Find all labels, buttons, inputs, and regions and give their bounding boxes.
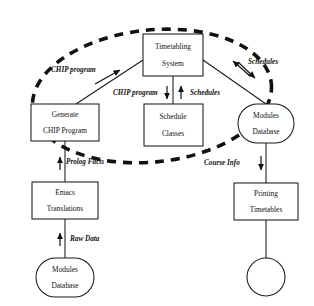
node-modules-database-right: Modules Database [238,104,294,143]
edge-label-raw-data: Raw Data [69,235,100,243]
node-generate-chip-program-line1: Generate [52,110,79,119]
node-output-circle-shape [247,258,285,296]
diagram-svg: Timetabling System Generate CHIP Program… [0,0,314,306]
node-schedule-classes: Schedule Classes [144,104,203,146]
edge-label-prolog-facts: Prolog Facts [66,158,104,166]
node-modules-database-right-line2: Database [252,127,280,136]
node-timetabling-system-shape [143,34,203,76]
node-printing-timetables: Printing Timetables [234,183,298,220]
edge-label-chip-program-diagonal: CHIP program [51,66,96,74]
node-generate-chip-program: Generate CHIP Program [31,104,99,141]
edge-timetabling-to-modules [203,60,266,104]
node-modules-database-right-line1: Modules [253,111,279,120]
edge-label-chip-program-down: CHIP program [113,89,158,97]
node-modules-database-bottom-line2: Database [51,281,79,290]
node-output-circle [247,258,285,296]
node-generate-chip-program-line2: CHIP Program [43,126,87,135]
node-timetabling-system-line2: System [162,59,184,68]
diagram-canvas: Timetabling System Generate CHIP Program… [0,0,314,306]
edge-label-course-info: Course Info [204,159,240,167]
node-schedule-classes-shape [144,104,203,146]
edge-label-schedules-diagonal: Schedules [248,58,278,66]
edge-label-schedules-up: Schedules [190,89,220,97]
node-printing-timetables-line2: Timetables [250,205,283,214]
node-emacs-translations-line2: Translations [47,204,83,213]
node-modules-database-bottom-line1: Modules [52,265,78,274]
node-schedule-classes-line2: Classes [162,129,184,138]
node-schedule-classes-line1: Schedule [159,112,187,121]
node-printing-timetables-line1: Printing [254,189,278,198]
node-timetabling-system-line1: Timetabling [155,42,191,51]
node-emacs-translations-line1: Emacs [55,188,75,197]
node-timetabling-system: Timetabling System [143,34,203,76]
node-emacs-translations: Emacs Translations [32,182,98,219]
node-modules-database-bottom: Modules Database [36,258,94,297]
